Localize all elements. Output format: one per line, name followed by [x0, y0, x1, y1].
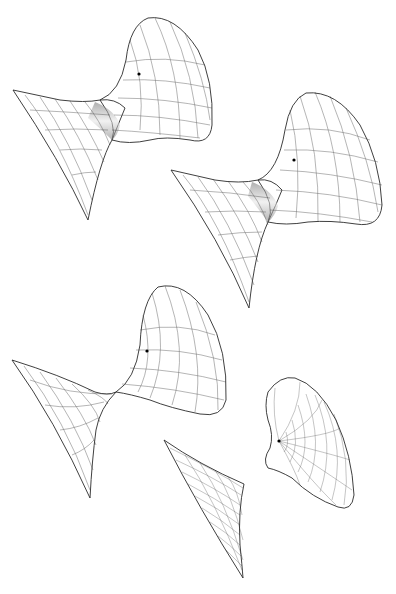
surface-5-sheet: [265, 378, 354, 509]
surface-3: [12, 286, 226, 498]
surface-5: [265, 378, 354, 509]
surface-3-mesh: [24, 286, 226, 490]
surface-5-mesh: [274, 382, 352, 505]
surface-3-marker: [145, 349, 148, 352]
surface-1-marker: [137, 72, 140, 75]
surface-1: [13, 18, 212, 220]
surface-3-right-bell: [116, 286, 226, 415]
surface-2: [171, 92, 382, 308]
surfaces-figure: [0, 0, 396, 594]
surface-4-sheet: [164, 440, 244, 578]
surface-5-marker: [277, 439, 280, 442]
surface-1-mesh: [25, 18, 212, 215]
surface-2-marker: [292, 158, 295, 161]
surface-2-mesh: [183, 92, 382, 302]
surface-4: [164, 440, 244, 578]
surface-3-left-sheet: [12, 360, 116, 498]
